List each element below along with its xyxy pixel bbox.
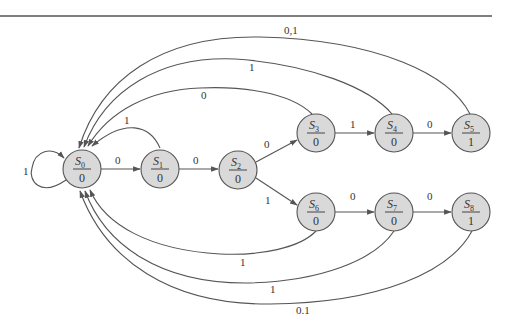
state-s7: S7 0 xyxy=(375,193,413,231)
state-s8: S8 1 xyxy=(452,193,490,231)
svg-text:1: 1 xyxy=(468,135,474,149)
label-s7-s8: 0 xyxy=(427,190,433,202)
label-s6-s7: 0 xyxy=(350,190,356,202)
state-s0: S0 0 xyxy=(63,150,101,188)
svg-text:0: 0 xyxy=(79,171,85,185)
edge-s4-s0 xyxy=(84,59,392,147)
label-s1-s0: 1 xyxy=(124,114,130,126)
label-s5-s0: 0,1 xyxy=(284,24,298,36)
edge-s0-s0 xyxy=(31,151,66,187)
edge-s3-s0 xyxy=(88,88,312,146)
label-s7-s0: 1 xyxy=(270,283,276,295)
state-diagram: 1 0 0 0 1 1 0 0 0 1 0 1 0,1 1 1 0.1 S0 0… xyxy=(0,0,515,330)
label-s1-s2: 0 xyxy=(193,154,199,166)
edge-s8-s0 xyxy=(80,191,472,304)
svg-text:0: 0 xyxy=(313,135,319,149)
svg-text:0: 0 xyxy=(157,171,163,185)
state-s3: S3 0 xyxy=(297,114,335,152)
svg-text:0: 0 xyxy=(391,214,397,228)
label-s4-s5: 0 xyxy=(427,118,433,130)
state-s2: S2 0 xyxy=(219,151,257,189)
svg-text:1: 1 xyxy=(468,214,474,228)
label-s4-s0: 1 xyxy=(249,61,255,73)
svg-text:0: 0 xyxy=(391,135,397,149)
state-s1: S1 0 xyxy=(141,150,179,188)
label-s6-s0: 1 xyxy=(240,256,246,268)
state-s4: S4 0 xyxy=(375,114,413,152)
label-s2-s3: 0 xyxy=(264,138,270,150)
edge-s7-s0 xyxy=(85,191,394,283)
edge-s2-s6 xyxy=(256,178,297,205)
label-s2-s6: 1 xyxy=(265,194,271,206)
label-s3-s4: 1 xyxy=(350,118,356,130)
state-s6: S6 0 xyxy=(297,193,335,231)
svg-text:0: 0 xyxy=(313,214,319,228)
label-s8-s0: 0.1 xyxy=(296,304,310,316)
svg-text:0: 0 xyxy=(235,172,241,186)
edge-s2-s3 xyxy=(256,140,297,162)
label-s0-s0: 1 xyxy=(23,165,29,177)
label-s0-s1: 0 xyxy=(115,154,121,166)
label-s3-s0: 0 xyxy=(201,89,207,101)
state-s5: S5 1 xyxy=(452,114,490,152)
edge-s1-s0 xyxy=(92,128,160,148)
edge-s6-s0 xyxy=(90,190,316,254)
